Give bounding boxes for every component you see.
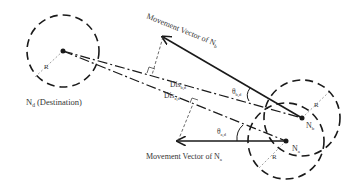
destination-label: Nd (Destination) (26, 97, 82, 108)
angle-arc-a (237, 125, 243, 141)
destination-radius-line (35, 51, 63, 77)
node-b-radius-label: R (314, 101, 319, 109)
distance-a-label: Disa,d (164, 91, 181, 102)
node-a-label: Na (292, 144, 301, 154)
angle-a-label: θa,d (217, 127, 227, 138)
angle-arc-b (247, 88, 250, 101)
projection-line-b (152, 37, 163, 75)
node-b-label: Nb (306, 121, 315, 131)
destination-radius-label: R (44, 63, 49, 71)
node-a-radius-label: R (272, 153, 277, 161)
movement-vector-b (163, 37, 302, 118)
angle-b-label: θb,d (232, 87, 242, 98)
distance-b-label: Disb,d (170, 80, 187, 91)
right-angle-marker-a (190, 98, 198, 103)
movement-vector-b-label: Movement Vector of Nb (145, 12, 220, 50)
diagram-canvas: R Nd (Destination) R Nb R Na Movem (0, 0, 357, 191)
projection-line-a (178, 104, 193, 141)
movement-vector-a-label: Movement Vector of Na (146, 152, 223, 162)
